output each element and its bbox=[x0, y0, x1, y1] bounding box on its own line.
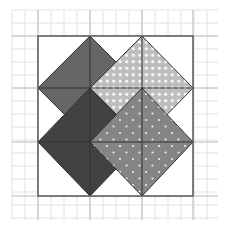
quilt-diagram bbox=[0, 0, 225, 229]
diagram-svg bbox=[0, 0, 225, 229]
